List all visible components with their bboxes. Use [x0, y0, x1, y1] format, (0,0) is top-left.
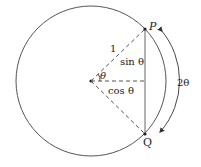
label-2theta: 2θ [177, 77, 189, 88]
label-q: Q [143, 136, 152, 149]
label-radius: 1 [110, 43, 116, 54]
unit-circle-diagram: P Q 1 sin θ cos θ θ 2θ [0, 0, 201, 167]
label-p: P [148, 20, 157, 33]
label-cos: cos θ [108, 85, 134, 96]
label-theta: θ [100, 70, 106, 81]
label-sin: sin θ [120, 56, 144, 67]
point-p [143, 27, 146, 30]
